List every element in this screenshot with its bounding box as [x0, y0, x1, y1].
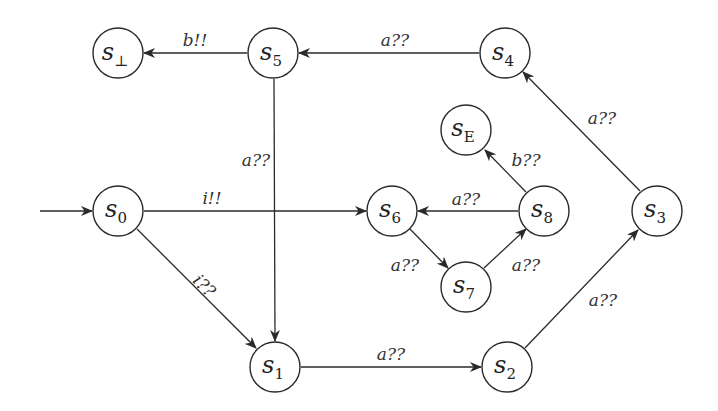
node-s8: s8	[519, 186, 569, 236]
state-diagram: b!! a?? a?? i!! i?? a?? a?? a?? a?? a?? …	[0, 0, 718, 411]
edge-label-b-out: b!!	[183, 30, 208, 50]
node-s3: s3	[632, 186, 682, 236]
node-s6: s6	[367, 186, 417, 236]
edge-label-s6-s7: a??	[391, 255, 420, 275]
edge-label-s4-s5: a??	[381, 30, 410, 50]
edge-label-s8-s6: a??	[452, 189, 481, 209]
edge-label-s5-s1: a??	[242, 150, 271, 170]
edge-label-s7-s8: a??	[512, 255, 541, 275]
edge-s3-to-s4	[523, 72, 640, 191]
node-s5: s5	[248, 28, 298, 78]
node-s1: s1	[250, 342, 300, 392]
edge-label-s8-sE: b??	[511, 150, 541, 170]
node-s2: s2	[482, 342, 532, 392]
node-s7: s7	[441, 262, 491, 312]
node-sE: sE	[441, 105, 491, 155]
node-s0: s0	[93, 186, 143, 236]
edge-label-s0-s1: i??	[189, 270, 221, 302]
edge-label-s1-s2: a??	[377, 344, 406, 364]
edge-label-s3-s4: a??	[588, 108, 617, 128]
node-s4: s4	[480, 28, 530, 78]
edge-s5-to-s1	[274, 79, 275, 341]
edge-label-s2-s3: a??	[589, 290, 618, 310]
node-s-bottom: s⊥	[93, 28, 143, 78]
edge-s2-to-s3	[525, 230, 638, 348]
edge-label-s0-s6: i!!	[202, 188, 221, 208]
